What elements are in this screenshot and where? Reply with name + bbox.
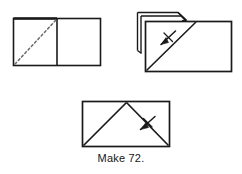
figure-caption: Make 72. bbox=[0, 152, 242, 165]
step3-main-rectangle bbox=[83, 102, 170, 147]
diagram-step-3 bbox=[83, 102, 170, 147]
origami-instruction-figure: Make 72. bbox=[0, 0, 242, 174]
diagram-step-1 bbox=[14, 19, 101, 66]
figure-diagram-canvas bbox=[0, 0, 242, 174]
diagram-step-2 bbox=[138, 13, 232, 72]
